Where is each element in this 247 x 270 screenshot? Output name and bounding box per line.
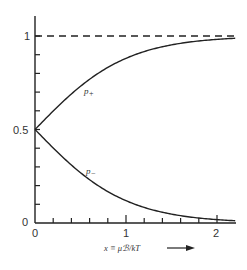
chart: 1 0.5 0 0 1 2 p+ p− x ≡ μℬ/kT	[0, 0, 247, 270]
p-minus-curve	[35, 130, 235, 221]
x-tick-label-2: 2	[213, 227, 219, 239]
y-tick-label-0.5: 0.5	[13, 124, 28, 136]
y-ticks	[35, 36, 40, 204]
x-axis-label: x ≡ μℬ/kT	[103, 243, 141, 253]
x-ticks	[53, 215, 217, 223]
y-tick-label-0: 0	[22, 216, 28, 228]
y-tick-label-1: 1	[24, 30, 30, 42]
p-plus-label: p+	[83, 86, 94, 98]
x-tick-label-1: 1	[123, 227, 129, 239]
p-minus-label: p−	[85, 166, 96, 178]
x-tick-label-0: 0	[32, 227, 38, 239]
arrow-right-icon	[167, 245, 195, 251]
p-plus-curve	[35, 38, 235, 129]
